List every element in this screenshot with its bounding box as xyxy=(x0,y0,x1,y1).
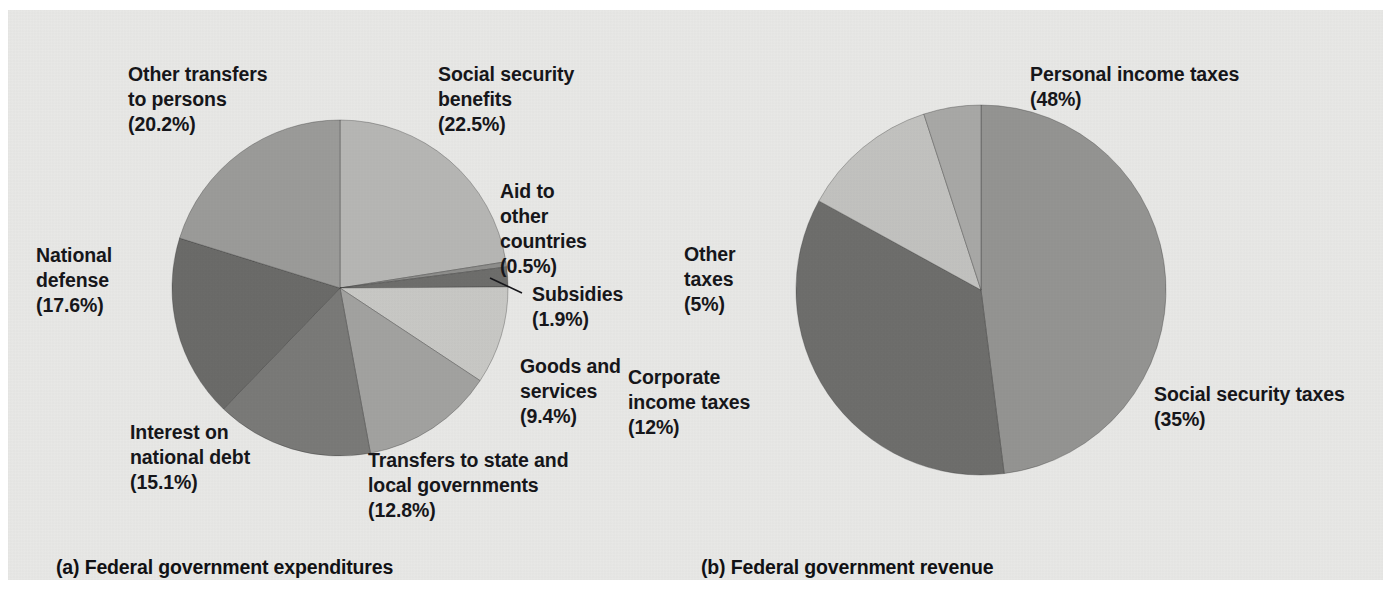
caption-federal-government-expenditures: (a) Federal government expenditures xyxy=(56,556,393,579)
pie-chart-expenditures xyxy=(172,120,508,456)
label-other-transfers-to-persons: Other transfers to persons (20.2%) xyxy=(128,62,267,137)
label-aid-to-other-countries: Aid to other countries (0.5%) xyxy=(500,179,587,279)
pie-chart-revenue xyxy=(796,105,1166,475)
label-social-security-taxes: Social security taxes (35%) xyxy=(1154,382,1345,432)
label-corporate-income-taxes: Corporate income taxes (12%) xyxy=(628,365,750,440)
label-transfers-to-state-and-local-governments: Transfers to state and local governments… xyxy=(368,448,568,523)
figure-panel: Other transfers to persons (20.2%) Socia… xyxy=(8,10,1383,580)
label-other-taxes: Other taxes (5%) xyxy=(684,242,736,317)
label-personal-income-taxes: Personal income taxes (48%) xyxy=(1030,62,1239,112)
label-social-security-benefits: Social security benefits (22.5%) xyxy=(438,62,574,137)
label-subsidies: Subsidies (1.9%) xyxy=(532,282,623,332)
label-interest-on-national-debt: Interest on national debt (15.1%) xyxy=(130,420,250,495)
pie-slice xyxy=(981,105,1166,474)
label-goods-and-services: Goods and services (9.4%) xyxy=(520,354,621,429)
caption-federal-government-revenue: (b) Federal government revenue xyxy=(701,556,993,579)
label-national-defense: National defense (17.6%) xyxy=(36,243,112,318)
pie-slice xyxy=(340,120,506,288)
